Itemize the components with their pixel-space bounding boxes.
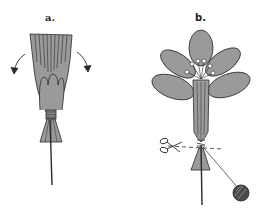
fold-outward-arrow-left-icon [11,54,25,74]
panel-a-flower [30,34,72,185]
panel-b-flower [149,30,254,205]
fold-outward-arrow-right-icon [77,52,91,72]
thread-ball-icon [233,185,249,201]
diagram-canvas [0,0,261,221]
scissors-icon [159,137,182,153]
